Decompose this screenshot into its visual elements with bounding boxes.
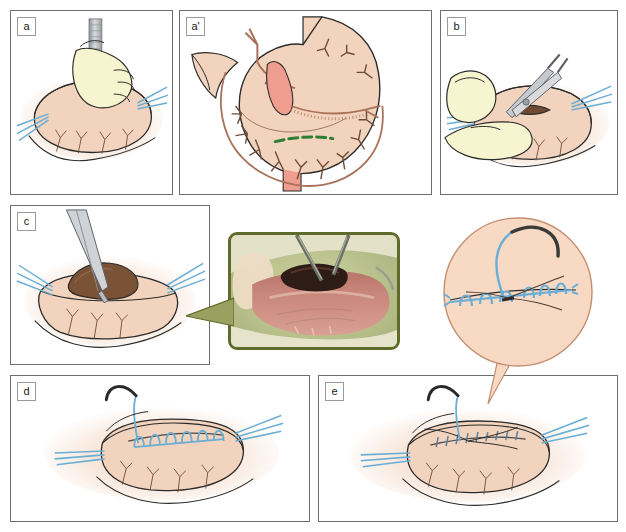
panel-a: a	[10, 10, 173, 195]
gloved-hand	[73, 41, 135, 108]
intraoperative-photograph	[228, 232, 400, 350]
panel-b-artwork	[441, 11, 617, 194]
panel-label-a: a	[17, 17, 36, 36]
panel-label-c: c	[17, 212, 36, 231]
callout-content	[436, 214, 612, 404]
photograph-content	[231, 235, 397, 347]
stomach-body	[239, 17, 379, 174]
curved-needle	[106, 386, 136, 399]
panel-a-prime-artwork	[180, 11, 431, 194]
panel-label-b: b	[447, 17, 466, 36]
surgical-technique-figure: a	[0, 0, 626, 532]
panel-label-d: d	[17, 382, 36, 401]
suture-detail-callout	[436, 214, 612, 404]
panel-a-artwork	[11, 11, 172, 194]
panel-b: b	[440, 10, 618, 195]
panel-c: c	[10, 205, 210, 365]
panel-d: d	[10, 375, 310, 522]
photo-callout-pointer	[186, 296, 234, 330]
panel-c-artwork	[11, 206, 209, 364]
panel-d-artwork	[11, 376, 309, 521]
panel-label-a-prime: a'	[186, 17, 205, 36]
panel-a-prime: a'	[179, 10, 432, 195]
panel-label-e: e	[325, 382, 344, 401]
